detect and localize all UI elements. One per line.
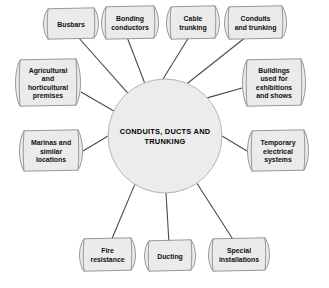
node-shape-agricultural-horticultural[interactable] — [16, 59, 81, 106]
node-marinas-similar-locations[interactable]: Marinas andsimilarlocations — [20, 130, 83, 171]
node-shape-cable-trunking[interactable] — [167, 6, 220, 39]
node-agricultural-horticultural[interactable]: Agriculturalandhorticulturalpremises — [16, 59, 81, 106]
node-ducting[interactable]: Ducting — [145, 240, 196, 271]
node-label-agricultural-horticultural: Agriculturalandhorticulturalpremises — [28, 67, 68, 100]
node-cable-trunking[interactable]: Cabletrunking — [167, 6, 220, 39]
node-bonding-conductors[interactable]: Bondingconductors — [102, 6, 159, 39]
connector-line-ducting — [166, 193, 169, 243]
connector-line-special-installations — [197, 183, 234, 241]
node-label-temporary-electrical-systems: Temporaryelectricalsystems — [260, 139, 295, 164]
node-label-bonding-conductors: Bondingconductors — [111, 15, 149, 30]
connector-line-temporary-electrical-systems — [222, 136, 247, 151]
connector-line-marinas-similar-locations — [83, 136, 108, 151]
node-label-ducting: Ducting — [157, 253, 183, 261]
node-shape-fire-resistance[interactable] — [80, 238, 136, 271]
node-buildings-exhibitions[interactable]: Buildingsused forexhibitionsand shows — [243, 59, 306, 106]
node-special-installations[interactable]: Specialinstallations — [209, 238, 270, 271]
node-temporary-electrical-systems[interactable]: Temporaryelectricalsystems — [248, 130, 309, 171]
connector-line-conduits-and-trunking — [187, 37, 246, 84]
node-shape-bonding-conductors[interactable] — [102, 6, 159, 39]
node-label-buildings-exhibitions: Buildingsused forexhibitionsand shows — [256, 67, 293, 99]
hub-group[interactable]: CONDUITS, DUCTS ANDTRUNKING — [108, 79, 222, 193]
node-shape-buildings-exhibitions[interactable] — [243, 59, 306, 106]
connector-line-agricultural-horticultural — [81, 92, 114, 111]
node-busbars[interactable]: Busbars — [44, 8, 99, 39]
diagram-canvas: CONDUITS, DUCTS ANDTRUNKING BusbarsBondi… — [0, 0, 329, 288]
node-conduits-and-trunking[interactable]: Conduitsand trunking — [225, 6, 287, 39]
connector-line-buildings-exhibitions — [207, 88, 242, 98]
connector-line-bonding-conductors — [127, 37, 145, 83]
node-label-conduits-and-trunking: Conduitsand trunking — [235, 15, 277, 31]
connector-line-cable-trunking — [163, 37, 189, 79]
connector-line-busbars — [78, 37, 128, 93]
node-shape-conduits-and-trunking[interactable] — [225, 6, 287, 39]
node-shape-special-installations[interactable] — [209, 238, 270, 271]
spoke-diagram: CONDUITS, DUCTS ANDTRUNKING BusbarsBondi… — [0, 0, 329, 288]
connector-line-fire-resistance — [111, 184, 135, 241]
node-label-busbars: Busbars — [57, 21, 85, 28]
node-fire-resistance[interactable]: Fireresistance — [80, 238, 136, 271]
